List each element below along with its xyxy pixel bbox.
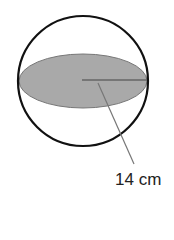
cross-section-ellipse — [19, 54, 147, 108]
radius-label: 14 cm — [115, 170, 161, 190]
